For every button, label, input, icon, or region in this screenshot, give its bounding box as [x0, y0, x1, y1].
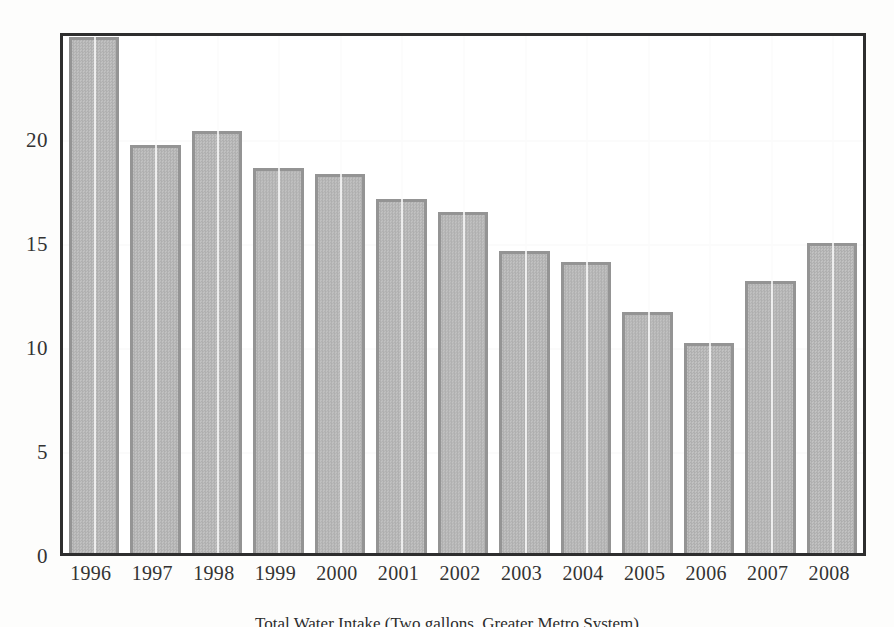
x-tick-label-2005: 2005 — [624, 562, 665, 585]
plot-area — [60, 33, 866, 556]
y-tick-label-20: 20 — [0, 128, 48, 153]
gridline-vertical — [832, 36, 834, 553]
y-tick-label-5: 5 — [0, 440, 48, 465]
x-tick-label-2000: 2000 — [316, 562, 357, 585]
gridline-vertical — [94, 36, 96, 553]
x-tick-label-1998: 1998 — [193, 562, 234, 585]
x-axis: 1996199719981999200020012002200320042005… — [60, 562, 866, 596]
y-tick-label-15: 15 — [0, 232, 48, 257]
gridline-vertical — [525, 36, 527, 553]
y-tick-label-10: 10 — [0, 336, 48, 361]
gridline-vertical — [401, 36, 403, 553]
gridline-vertical — [155, 36, 157, 553]
gridline-vertical — [648, 36, 650, 553]
x-tick-label-2007: 2007 — [747, 562, 788, 585]
gridline-vertical — [217, 36, 219, 553]
x-tick-label-1997: 1997 — [132, 562, 173, 585]
y-tick-label-0: 0 — [0, 544, 48, 569]
x-tick-label-2001: 2001 — [378, 562, 419, 585]
x-tick-label-1996: 1996 — [70, 562, 111, 585]
gridline-vertical — [278, 36, 280, 553]
x-tick-label-1999: 1999 — [255, 562, 296, 585]
x-tick-label-2008: 2008 — [809, 562, 850, 585]
gridline-vertical — [771, 36, 773, 553]
plot-inner — [63, 36, 863, 553]
y-axis: 05101520 — [0, 0, 52, 627]
x-tick-label-2002: 2002 — [439, 562, 480, 585]
figure-caption: Total Water Intake (Two gallons, Greater… — [0, 613, 894, 627]
gridline-vertical — [463, 36, 465, 553]
gridline-vertical — [709, 36, 711, 553]
gridline-vertical — [340, 36, 342, 553]
x-tick-label-2006: 2006 — [686, 562, 727, 585]
gridline-vertical — [586, 36, 588, 553]
x-tick-label-2004: 2004 — [562, 562, 603, 585]
x-tick-label-2003: 2003 — [501, 562, 542, 585]
bar-chart-figure: 05101520 1996199719981999200020012002200… — [0, 0, 894, 627]
